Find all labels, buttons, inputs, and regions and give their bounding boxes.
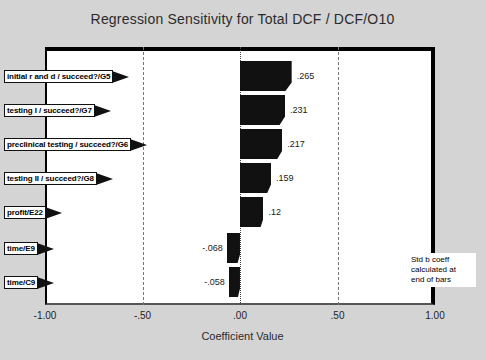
chart-title: Regression Sensitivity for Total DCF / D… xyxy=(0,11,485,27)
bar xyxy=(240,163,271,193)
category-callout: preclinical testing / succeed?/G6 xyxy=(4,138,147,151)
category-callout: time/C9 xyxy=(4,276,54,289)
category-label: preclinical testing / succeed?/G6 xyxy=(4,138,131,151)
x-tick-label: -1.00 xyxy=(34,310,57,321)
gridline xyxy=(338,47,339,305)
bar-value-label: -.068 xyxy=(197,243,223,253)
category-callout: profit/E22 xyxy=(4,206,62,219)
callout-arrow-icon xyxy=(37,277,54,289)
callout-arrow-icon xyxy=(112,71,129,83)
bar-value-label: .217 xyxy=(287,139,305,149)
bar-value-label: .231 xyxy=(290,105,308,115)
x-tick-label: 1.00 xyxy=(425,310,444,321)
std-b-coeff-annotation: Std b coeff calculated at end of bars xyxy=(408,253,476,287)
category-callout: initial r and d / succeed?/G5 xyxy=(4,70,129,83)
bar-value-label: .12 xyxy=(268,207,281,217)
category-callout: testing I / succeed?/G7 xyxy=(4,104,111,117)
category-label: testing II / succeed?/G8 xyxy=(4,172,97,185)
bar xyxy=(240,129,282,159)
bar-value-label: .159 xyxy=(276,173,294,183)
gridline xyxy=(143,47,144,305)
bar xyxy=(227,233,240,263)
callout-arrow-icon xyxy=(37,243,54,255)
category-label: time/E9 xyxy=(4,242,38,255)
category-label: initial r and d / succeed?/G5 xyxy=(4,70,113,83)
x-axis-label: Coefficient Value xyxy=(0,330,485,342)
category-label: profit/E22 xyxy=(4,206,46,219)
bar-value-label: -.058 xyxy=(199,277,225,287)
category-callout: testing II / succeed?/G8 xyxy=(4,172,113,185)
x-tick-label: -.50 xyxy=(134,310,151,321)
category-callout: time/E9 xyxy=(4,242,54,255)
callout-arrow-icon xyxy=(130,139,147,151)
callout-arrow-icon xyxy=(45,207,62,219)
bar xyxy=(240,61,292,91)
callout-arrow-icon xyxy=(96,173,113,185)
bar-value-label: .265 xyxy=(297,71,315,81)
bar xyxy=(240,197,263,227)
category-label: time/C9 xyxy=(4,276,38,289)
bar xyxy=(240,95,285,125)
x-tick-label: .50 xyxy=(331,310,345,321)
bar xyxy=(229,267,240,297)
regression-sensitivity-chart: Regression Sensitivity for Total DCF / D… xyxy=(0,0,485,360)
x-tick-label: .00 xyxy=(233,310,247,321)
callout-arrow-icon xyxy=(94,105,111,117)
category-label: testing I / succeed?/G7 xyxy=(4,104,95,117)
